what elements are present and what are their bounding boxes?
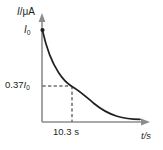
chart-plot-area: [0, 0, 163, 150]
exponential-decay-chart: I/μA I0 0.37I0 10.3 s t/s: [0, 0, 163, 150]
x-axis-label: t/s: [141, 131, 151, 141]
y-axis-label: I/μA: [17, 7, 35, 17]
initial-current-label: I0: [24, 25, 31, 35]
x-axis-unit: /s: [144, 130, 151, 141]
decay-curve: [43, 31, 141, 120]
decay-value-label: 0.37I0: [5, 80, 30, 90]
y-axis-unit: /μA: [20, 6, 35, 17]
initial-point-marker: [40, 28, 44, 32]
time-constant-label: 10.3 s: [53, 127, 79, 137]
guide-lines: [43, 86, 73, 122]
decay-value-subscript: 0: [26, 84, 30, 91]
initial-current-subscript: 0: [27, 29, 31, 36]
decay-value-prefix: 0.37: [5, 79, 24, 90]
